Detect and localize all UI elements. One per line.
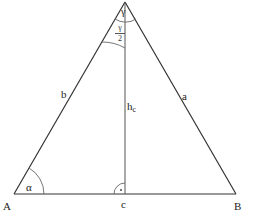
vertex-label-b: B [234, 201, 241, 212]
angle-label-half-gamma: γ 2 [115, 24, 125, 43]
angle-label-alpha: α [26, 182, 32, 193]
half-gamma-denominator: 2 [118, 34, 122, 43]
side-label-c: c [121, 199, 126, 210]
side-label-a: a [182, 91, 187, 102]
vertex-label-a: A [3, 201, 11, 212]
angle-label-gamma: γ [121, 7, 125, 17]
altitude-label-subscript: c [133, 105, 137, 114]
half-gamma-numerator: γ [118, 23, 122, 32]
altitude-label: hc [127, 101, 136, 114]
right-angle-dot [120, 189, 122, 191]
side-label-b: b [61, 89, 67, 100]
right-angle-arc [114, 183, 125, 194]
side-b [14, 2, 125, 194]
side-a [125, 2, 236, 194]
